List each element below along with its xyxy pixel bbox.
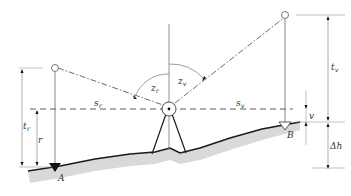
tripod-leg-right: [172, 114, 186, 153]
label-zr: zr: [150, 83, 160, 95]
dim-tv-arrow-bottom: [327, 117, 330, 121]
ground-fill: [28, 122, 300, 183]
label-sv: sv: [236, 98, 245, 110]
surveying-diagram: tr r sr zr zv sv tv v Δh A B: [0, 0, 351, 196]
label-tv: tv: [331, 62, 339, 74]
tripod-leg-left: [152, 114, 166, 154]
label-sr: sr: [94, 98, 103, 110]
dim-dh-arrow-bottom: [327, 165, 330, 169]
dim-r-arrow-bottom: [36, 162, 39, 166]
label-v: v: [309, 111, 314, 121]
label-delta-h: Δh: [329, 141, 342, 151]
target-a: [52, 65, 59, 72]
zenith-arc-v: [169, 64, 204, 79]
label-point-b: B: [286, 130, 294, 140]
dim-v-arrow-up: [305, 122, 308, 126]
dim-v-arrow-down: [305, 105, 308, 109]
ground-line: [28, 122, 300, 171]
sight-line-a: [58, 68, 163, 105]
dim-dh-arrow-top: [327, 123, 330, 127]
sight-line-b: [175, 17, 285, 103]
target-b: [282, 12, 289, 19]
dim-r-arrow-top: [36, 110, 39, 114]
dim-tr-arrow-bottom: [21, 162, 24, 166]
dim-tr-arrow-top: [21, 69, 24, 73]
label-tr: tr: [23, 121, 31, 133]
label-r: r: [38, 135, 43, 145]
label-zv: zv: [177, 76, 187, 88]
label-point-a: A: [57, 173, 65, 183]
instrument-center-dot: [168, 108, 171, 111]
dim-tv-arrow-top: [327, 16, 330, 20]
